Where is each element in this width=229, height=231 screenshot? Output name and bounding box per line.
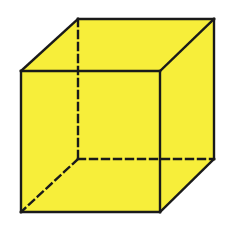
cube-diagram (0, 0, 229, 231)
